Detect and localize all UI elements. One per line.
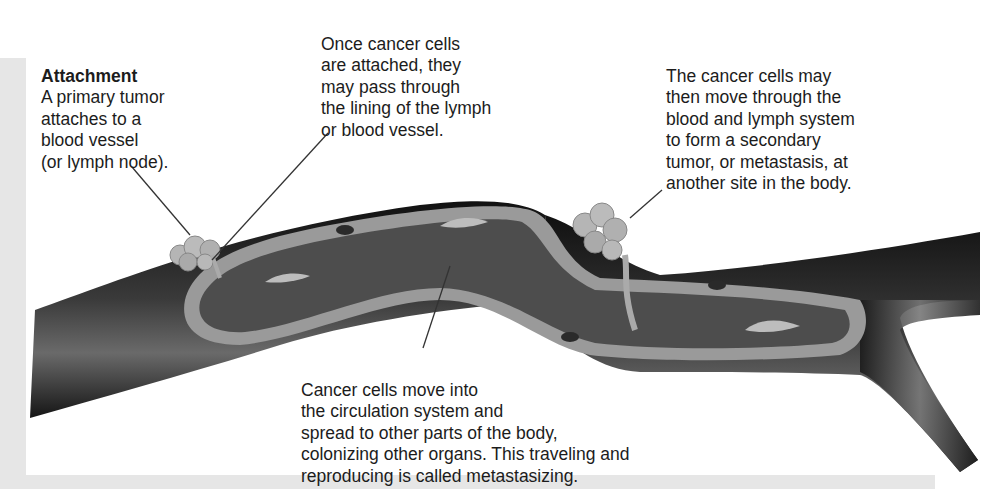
wall-pore	[561, 332, 579, 342]
label-attachment-title: Attachment	[41, 66, 168, 88]
leader-line-secondary-tumor	[630, 190, 662, 218]
label-secondary-tumor: The cancer cells may then move through t…	[666, 44, 855, 195]
wall-pore	[708, 280, 726, 290]
label-circulation-text: Cancer cells move into the circulation s…	[301, 380, 629, 486]
leader-line-attachment	[132, 167, 190, 235]
label-attachment: AttachmentA primary tumor attaches to a …	[41, 44, 168, 173]
wall-pore	[336, 225, 354, 235]
label-attachment-text: A primary tumor attaches to a blood vess…	[41, 87, 168, 172]
label-secondary-tumor-text: The cancer cells may then move through t…	[666, 66, 855, 194]
label-passing-lining: Once cancer cells are attached, they may…	[321, 12, 491, 141]
vessel-branch	[860, 300, 980, 472]
label-passing-lining-text: Once cancer cells are attached, they may…	[321, 34, 491, 140]
label-circulation: Cancer cells move into the circulation s…	[301, 358, 629, 487]
